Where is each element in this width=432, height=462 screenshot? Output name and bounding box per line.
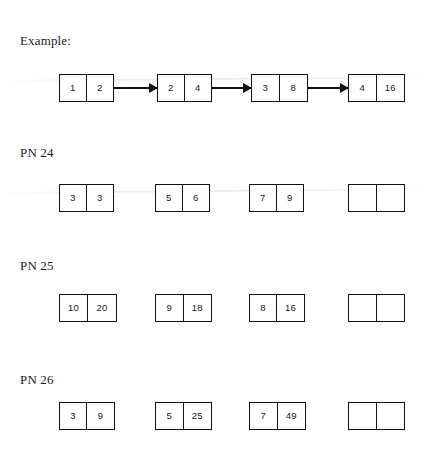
- node-cell-right[interactable]: 16: [377, 75, 405, 101]
- node-cell-left[interactable]: 7: [250, 403, 278, 429]
- list-node[interactable]: 1020: [59, 294, 117, 322]
- next-pointer-arrow-icon: [114, 83, 157, 93]
- node-cell-right[interactable]: 2: [87, 75, 114, 101]
- node-cell-left[interactable]: 5: [156, 403, 184, 429]
- arrow-head: [340, 83, 349, 93]
- list-node[interactable]: 816: [249, 294, 305, 322]
- node-cell-right[interactable]: 9: [87, 403, 114, 429]
- node-cell-right[interactable]: [377, 185, 405, 211]
- node-cell-right[interactable]: 16: [277, 295, 304, 321]
- node-cell-left[interactable]: 10: [60, 295, 88, 321]
- node-cell-left[interactable]: 4: [349, 75, 377, 101]
- row-label-pn-25: PN 25: [20, 258, 54, 273]
- node-cell-right[interactable]: 9: [277, 185, 304, 211]
- list-node[interactable]: 38: [251, 74, 308, 102]
- list-node[interactable]: 39: [59, 402, 115, 430]
- list-node[interactable]: 24: [157, 74, 212, 102]
- row-label-example: Example:: [20, 33, 71, 48]
- arrow-head: [243, 83, 252, 93]
- node-cell-left[interactable]: [349, 295, 377, 321]
- node-cell-left[interactable]: 9: [156, 295, 184, 321]
- node-cell-right[interactable]: [377, 403, 405, 429]
- row-label-pn-26: PN 26: [20, 372, 54, 387]
- node-cell-right[interactable]: 18: [184, 295, 212, 321]
- list-node-empty[interactable]: [348, 184, 405, 212]
- list-node[interactable]: 918: [155, 294, 212, 322]
- list-node[interactable]: 56: [155, 184, 210, 212]
- node-cell-right[interactable]: 20: [88, 295, 116, 321]
- node-cell-right[interactable]: 6: [183, 185, 210, 211]
- node-cell-left[interactable]: 2: [158, 75, 185, 101]
- node-cell-left[interactable]: 3: [252, 75, 280, 101]
- list-node[interactable]: 416: [348, 74, 405, 102]
- list-node-empty[interactable]: [348, 402, 405, 430]
- list-node[interactable]: 33: [59, 184, 114, 212]
- row-label-pn-24: PN 24: [20, 145, 54, 160]
- next-pointer-arrow-icon: [308, 83, 348, 93]
- list-node[interactable]: 79: [249, 184, 304, 212]
- list-node[interactable]: 12: [59, 74, 114, 102]
- node-cell-right[interactable]: 49: [278, 403, 306, 429]
- node-cell-right[interactable]: 8: [280, 75, 308, 101]
- node-cell-right[interactable]: 3: [87, 185, 114, 211]
- node-cell-left[interactable]: 1: [60, 75, 87, 101]
- arrow-head: [149, 83, 158, 93]
- node-cell-left[interactable]: [349, 185, 377, 211]
- list-node-empty[interactable]: [348, 294, 405, 322]
- next-pointer-arrow-icon: [212, 83, 251, 93]
- node-chain-pn-24: 335679: [0, 184, 432, 218]
- node-cell-left[interactable]: 3: [60, 403, 87, 429]
- node-cell-left[interactable]: 7: [250, 185, 277, 211]
- node-chain-pn-25: 1020918816: [0, 294, 432, 328]
- node-cell-right[interactable]: 25: [184, 403, 212, 429]
- node-cell-left[interactable]: 5: [156, 185, 183, 211]
- node-chain-example: 122438416: [0, 74, 432, 108]
- node-cell-left[interactable]: [349, 403, 377, 429]
- node-chain-pn-26: 39525749: [0, 402, 432, 436]
- list-node[interactable]: 749: [249, 402, 306, 430]
- node-cell-left[interactable]: 3: [60, 185, 87, 211]
- list-node[interactable]: 525: [155, 402, 212, 430]
- node-cell-right[interactable]: [377, 295, 405, 321]
- node-cell-right[interactable]: 4: [185, 75, 212, 101]
- node-cell-left[interactable]: 8: [250, 295, 277, 321]
